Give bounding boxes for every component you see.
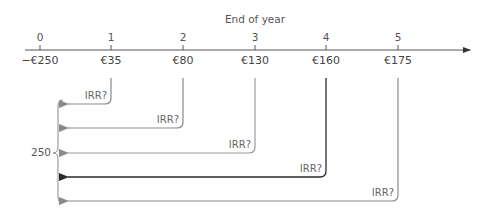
year-label-3: 3	[252, 31, 259, 43]
cash-flow-1: €35	[101, 54, 122, 67]
year-label-5: 5	[395, 31, 402, 43]
initial-investment-label: 250	[31, 146, 51, 158]
year-label-2: 2	[180, 31, 187, 43]
year-label-4: 4	[323, 31, 330, 43]
irr-label-3: IRR?	[229, 139, 251, 150]
year-label-0: 0	[37, 31, 44, 43]
timeline-axis	[25, 45, 470, 50]
axis-title: End of year	[225, 13, 285, 25]
cash-flow-5: €175	[384, 54, 412, 67]
irr-label-4: IRR?	[300, 163, 322, 174]
cash-flow-3: €130	[241, 54, 269, 67]
cash-flow-0: −€250	[21, 54, 58, 67]
irr-timeline-diagram: End of year 0 1 2 3 4 5 −€250 €35 €80 €1…	[0, 0, 484, 221]
year-label-1: 1	[108, 31, 115, 43]
irr-label-1: IRR?	[85, 90, 107, 101]
irr-label-5: IRR?	[372, 187, 394, 198]
cash-flow-2: €80	[173, 54, 194, 67]
curly-brace	[53, 100, 63, 203]
cash-flow-4: €160	[312, 54, 340, 67]
irr-label-2: IRR?	[157, 114, 179, 125]
